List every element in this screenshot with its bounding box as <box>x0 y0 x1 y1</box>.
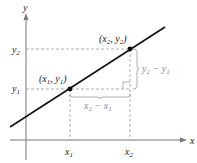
point-1-dot <box>68 87 73 92</box>
x-axis: x <box>10 135 195 146</box>
slope-diagram: y x (x1, y1) (x2, y2) y2 y1 x1 x2 <box>0 0 197 163</box>
x-axis-label: x <box>189 135 195 146</box>
y-axis: y <box>22 2 29 160</box>
x2-tick-label: x2 <box>124 146 133 159</box>
guide-lines <box>26 49 130 140</box>
y-axis-label: y <box>22 2 28 13</box>
y1-tick-label: y1 <box>11 83 20 96</box>
y-axis-arrow-icon <box>24 13 29 20</box>
right-angle-marker <box>123 82 130 89</box>
run-brace <box>70 94 130 99</box>
run-label: x2 − x1 <box>83 100 112 113</box>
x1-tick-label: x1 <box>64 146 73 159</box>
rise-brace <box>133 49 139 89</box>
point-2-dot <box>128 47 133 52</box>
rise-label: y2 − y1 <box>141 63 170 76</box>
y2-tick-label: y2 <box>11 44 20 57</box>
x-axis-arrow-icon <box>180 138 187 143</box>
point-2-label: (x2, y2) <box>99 33 127 46</box>
point-1-label: (x1, y1) <box>39 73 67 86</box>
